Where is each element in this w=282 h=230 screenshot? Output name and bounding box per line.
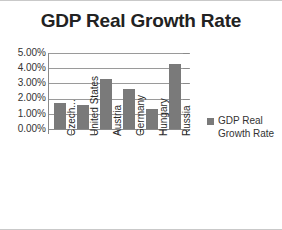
category-label-germany-wrap: Germany [126, 136, 138, 230]
category-label-germany: Germany [136, 95, 146, 136]
bar-russia [169, 64, 181, 129]
category-label-austria-wrap: Austria [103, 136, 115, 230]
bar-united-states [77, 105, 89, 129]
value-tick-3 [183, 83, 189, 84]
value-tick-2 [183, 99, 189, 100]
legend-entry-line-1: GDP Real [218, 115, 263, 126]
category-label-united-states-wrap: United States [80, 136, 92, 230]
category-label-hungary-wrap: Hungary [149, 136, 161, 230]
bar-czech [54, 103, 66, 129]
y-tick-label-1: 1.00% [2, 108, 46, 119]
gridline-5 [48, 53, 190, 54]
y-tick-label-4: 4.00% [2, 62, 46, 73]
chart-title: GDP Real Growth Rate [0, 10, 282, 32]
legend-entry-label: GDP Real Growth Rate [218, 114, 280, 140]
bar-austria [100, 79, 112, 129]
bar-germany [123, 89, 135, 129]
legend-entry-line-2: Growth Rate [218, 128, 274, 139]
category-label-united-states: United States [90, 76, 100, 136]
category-label-czech: Czech... [67, 99, 77, 136]
value-tick-4 [183, 68, 189, 69]
category-label-russia: Russia [182, 105, 192, 136]
legend-swatch-icon [207, 118, 214, 125]
y-tick-label-5: 5.00% [2, 47, 46, 58]
category-label-czech-wrap: Czech... [57, 136, 69, 230]
value-tick-5 [183, 53, 189, 54]
value-axis [48, 53, 49, 130]
category-label-austria: Austria [113, 105, 123, 136]
y-tick-label-2: 2.00% [2, 92, 46, 103]
category-label-russia-wrap: Russia [172, 136, 184, 230]
category-label-hungary: Hungary [159, 98, 169, 136]
category-tick-0 [48, 129, 49, 134]
y-tick-label-0: 0.00% [2, 123, 46, 134]
chart-screenshot: GDP Real Growth Rate 5.00% 4.00% 3.00% 2… [0, 0, 282, 230]
bar-hungary [146, 109, 158, 129]
y-tick-label-3: 3.00% [2, 77, 46, 88]
